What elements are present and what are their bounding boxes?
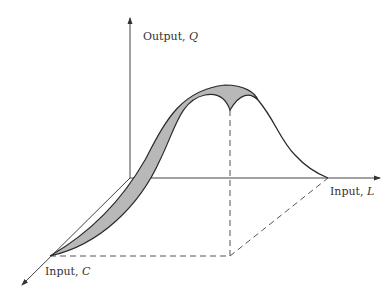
production-function-diagram: Output, Q Input, L Input, C [0,0,389,296]
capital-axis-label: Input, C [45,265,90,278]
surface-band [50,85,258,256]
output-axis-label: Output, Q [143,30,198,43]
diagram-canvas [0,0,389,296]
output-curve [258,100,328,178]
dashed-diagonal [230,178,328,256]
labor-axis-label: Input, L [330,185,374,198]
